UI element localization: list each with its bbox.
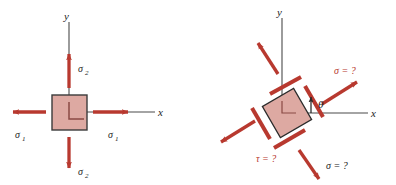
label-sigma2-bottom: σ 2 [78, 166, 89, 180]
label-sigma1-right-subscript: 1 [115, 135, 119, 143]
right-diagram: y x θ σ = ? τ = ? σ = ? [221, 6, 376, 179]
left-y-axis-label: y [63, 10, 69, 22]
label-sigma2-top-symbol: σ [78, 63, 84, 74]
label-sigma1-right-symbol: σ [108, 129, 114, 140]
label-sigma1-right: σ 1 [108, 129, 119, 143]
arrow-tau-lower-left [221, 121, 255, 142]
arrow-sigma-lower-right [299, 150, 319, 179]
label-sigma-bottom: σ = ? [326, 160, 348, 171]
label-sigma-top: σ = ? [334, 65, 356, 76]
label-sigma1-left-symbol: σ [15, 129, 21, 140]
label-sigma2-top-subscript: 2 [85, 69, 89, 77]
arrow-upper-left [258, 43, 278, 74]
face-bar-upper-left [270, 77, 301, 94]
arrow-sigma-upper-right [322, 82, 357, 104]
label-sigma2-bottom-subscript: 2 [85, 172, 89, 180]
label-theta: θ [318, 98, 324, 110]
figure-canvas: y x σ 2 σ 2 σ 1 σ 1 [0, 0, 396, 185]
label-sigma2-bottom-symbol: σ [78, 166, 84, 177]
left-diagram: y x σ 2 σ 2 σ 1 σ 1 [13, 10, 163, 180]
label-sigma1-left-subscript: 1 [22, 135, 26, 143]
right-y-axis-label: y [276, 6, 282, 18]
label-sigma1-left: σ 1 [15, 129, 26, 143]
right-x-axis-label: x [370, 107, 376, 119]
left-x-axis-label: x [157, 106, 163, 118]
label-tau: τ = ? [256, 153, 276, 164]
stress-element-figure: y x σ 2 σ 2 σ 1 σ 1 [0, 0, 396, 185]
label-sigma2-top: σ 2 [78, 63, 89, 77]
